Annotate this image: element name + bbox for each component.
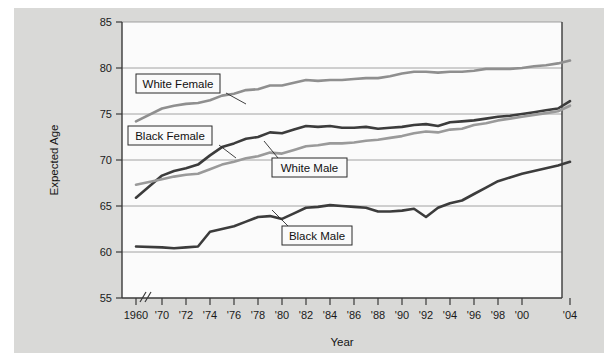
y-axis-ticks: 55606570758085: [100, 16, 122, 304]
x-axis-title: Year: [330, 336, 353, 348]
x-tick-label: '92: [419, 309, 433, 321]
x-tick-label: '00: [515, 309, 529, 321]
y-tick-label: 65: [100, 200, 112, 212]
line-chart: 55606570758085 1960'70'72'74'76'78'80'82…: [14, 8, 604, 353]
callout-black-male: Black Male: [282, 226, 352, 245]
y-tick-label: 75: [100, 108, 112, 120]
y-tick-label: 70: [100, 154, 112, 166]
callout-label: White Male: [281, 162, 339, 174]
x-tick-label: '82: [299, 309, 313, 321]
x-tick-label: '78: [251, 309, 265, 321]
x-tick-label: '80: [275, 309, 289, 321]
x-tick-label: '94: [443, 309, 457, 321]
y-tick-label: 60: [100, 246, 112, 258]
x-tick-label: '90: [395, 309, 409, 321]
x-tick-label: '86: [347, 309, 361, 321]
x-tick-label: '70: [155, 309, 169, 321]
y-tick-label: 80: [100, 62, 112, 74]
x-axis-ticks: 1960'70'72'74'76'78'80'82'84'86'88'90'92…: [124, 298, 577, 321]
x-tick-label: '96: [467, 309, 481, 321]
x-tick-label: '76: [227, 309, 241, 321]
callout-white-male: White Male: [272, 158, 347, 177]
x-tick-label: '74: [203, 309, 217, 321]
y-tick-label: 85: [100, 16, 112, 28]
y-axis-title: Expected Age: [48, 125, 60, 196]
callout-label: Black Male: [289, 230, 345, 242]
callout-black-female: Black Female: [128, 126, 212, 145]
y-tick-label: 55: [100, 292, 112, 304]
x-tick-label: '04: [563, 309, 577, 321]
callout-label: White Female: [143, 78, 214, 90]
x-tick-label: '72: [179, 309, 193, 321]
chart-plot-area: 55606570758085 1960'70'72'74'76'78'80'82…: [14, 8, 604, 353]
callout-white-female: White Female: [136, 74, 220, 93]
x-tick-label: '84: [323, 309, 337, 321]
x-tick-label: '98: [491, 309, 505, 321]
x-tick-label: 1960: [124, 309, 148, 321]
figure-container: 55606570758085 1960'70'72'74'76'78'80'82…: [14, 8, 604, 353]
callout-label: Black Female: [135, 130, 205, 142]
x-tick-label: '88: [371, 309, 385, 321]
